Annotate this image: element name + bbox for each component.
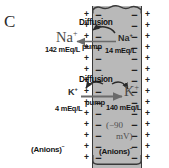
charge-plus: + (84, 109, 89, 118)
sodium-inside-ion-charge: + (130, 32, 133, 38)
potassium-diffusion-label: Diffusion (79, 76, 113, 84)
sodium-outside-concentration: 142 mEq/L (45, 46, 80, 53)
charge-column-outside-left: + + + + + + + + + + + + + + (82, 10, 91, 162)
anions-inside-label: (Anions)− (99, 148, 133, 156)
charge-plus: + (84, 32, 89, 41)
sodium-inside-concentration: 14 mEq/L (105, 47, 136, 54)
sodium-inside-ion-label: Na+ (118, 34, 133, 43)
charge-plus: + (145, 21, 150, 30)
potassium-inside-concentration: 140 mEq/L (106, 104, 141, 111)
cell-membrane-diagram: C + + + + + + + + + + + + + + − − − − − … (0, 0, 169, 168)
sodium-diffusion-label: Diffusion (79, 19, 113, 27)
potassium-inside-ion-label: K+ (124, 84, 139, 99)
potassium-inside-ion-charge: + (134, 83, 139, 92)
charge-plus: + (145, 120, 150, 129)
charge-plus: + (84, 65, 89, 74)
potassium-outside-ion-label: K+ (68, 88, 78, 97)
charge-plus: + (145, 43, 150, 52)
sodium-outside-ion-charge: + (73, 29, 78, 38)
sodium-pump-label: pump (82, 43, 102, 51)
charge-plus: + (145, 76, 150, 85)
anions-outside-charge: − (62, 144, 65, 149)
charge-column-outside-right: + + + + + + + + + + + + + + (143, 10, 152, 162)
charge-plus: + (84, 131, 89, 140)
charge-plus: + (145, 131, 150, 140)
charge-plus: + (84, 153, 89, 162)
anions-outside-label: (Anions)− (31, 146, 65, 154)
sodium-inside-ion-symbol: Na (118, 33, 130, 43)
charge-plus: + (145, 10, 150, 19)
anions-inside-text: (Anions) (99, 147, 130, 156)
charge-column-inside-left: − − − − − − − − − − − − − − (94, 10, 103, 162)
potassium-outside-concentration: 4 mEq/L (55, 105, 82, 112)
charge-plus: + (145, 65, 150, 74)
charge-plus: + (84, 87, 89, 96)
sodium-outside-ion-symbol: Na (56, 29, 73, 45)
charge-plus: + (145, 153, 150, 162)
anions-outside-text: (Anions) (31, 145, 62, 154)
charge-plus: + (145, 142, 150, 151)
charge-plus: + (145, 109, 150, 118)
potassium-outside-ion-charge: + (75, 86, 78, 92)
membrane-potential-line1: (−90 (106, 121, 123, 130)
potassium-pump-label: pump (85, 99, 105, 107)
membrane-potential-line2: mV) (116, 132, 133, 141)
charge-plus: + (84, 54, 89, 63)
potassium-inside-ion-symbol: K (124, 83, 134, 99)
charge-plus: + (145, 32, 150, 41)
charge-plus: + (145, 54, 150, 63)
charge-plus: + (84, 120, 89, 129)
sodium-outside-ion-label: Na+ (56, 30, 77, 45)
anions-inside-charge: − (130, 146, 133, 151)
charge-plus: + (84, 142, 89, 151)
charge-plus: + (145, 87, 150, 96)
charge-plus: + (145, 98, 150, 107)
panel-letter: C (4, 12, 15, 32)
